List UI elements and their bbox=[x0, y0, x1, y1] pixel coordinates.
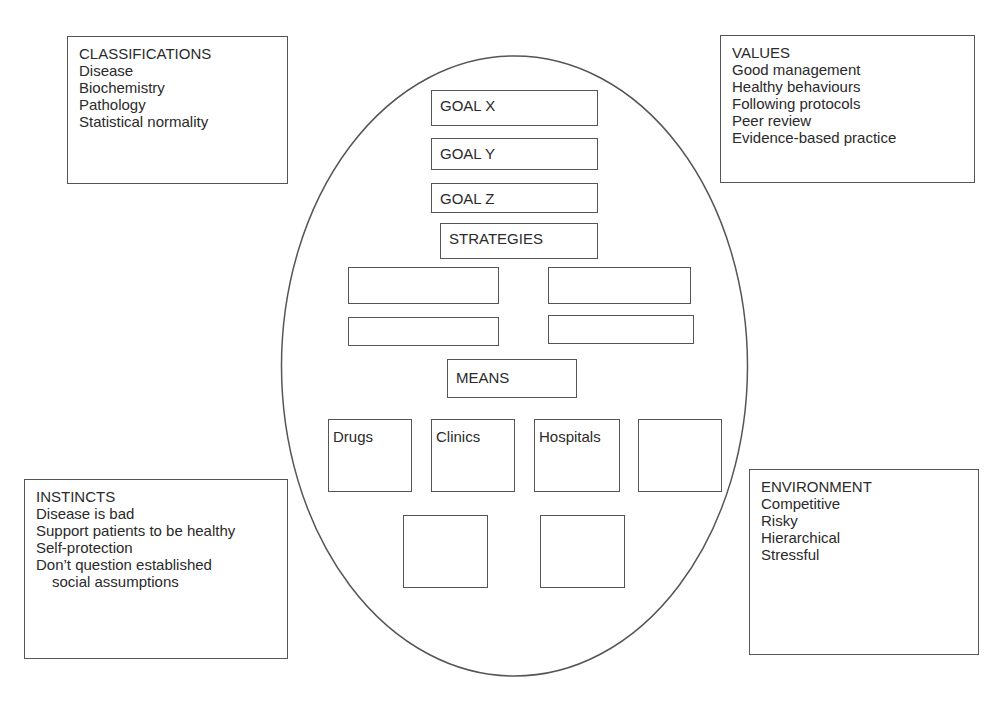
values-item: Healthy behaviours bbox=[732, 78, 974, 95]
values-item: Following protocols bbox=[732, 95, 974, 112]
means-drugs-box: Drugs bbox=[328, 419, 412, 492]
classifications-item: Pathology bbox=[79, 96, 287, 113]
means-empty-box bbox=[638, 419, 722, 492]
values-title: VALUES bbox=[732, 44, 974, 61]
instincts-item: Don’t question established bbox=[36, 556, 287, 573]
values-item: Good management bbox=[732, 61, 974, 78]
classifications-title: CLASSIFICATIONS bbox=[79, 45, 287, 62]
strategies-box: STRATEGIES bbox=[440, 223, 598, 259]
goal-x-box: GOAL X bbox=[431, 90, 598, 126]
classifications-item: Biochemistry bbox=[79, 79, 287, 96]
strategy-box bbox=[348, 267, 499, 304]
classifications-item: Disease bbox=[79, 62, 287, 79]
environment-item: Competitive bbox=[761, 495, 978, 512]
means-empty-box bbox=[403, 515, 488, 588]
instincts-item: Support patients to be healthy bbox=[36, 522, 287, 539]
environment-item: Hierarchical bbox=[761, 529, 978, 546]
goal-y-box: GOAL Y bbox=[431, 138, 598, 170]
means-clinics-box: Clinics bbox=[431, 419, 515, 492]
values-item: Evidence-based practice bbox=[732, 129, 974, 146]
instincts-item: Disease is bad bbox=[36, 505, 287, 522]
strategy-box bbox=[348, 317, 499, 346]
classifications-panel: CLASSIFICATIONS Disease Biochemistry Pat… bbox=[67, 36, 288, 184]
values-item: Peer review bbox=[732, 112, 974, 129]
environment-title: ENVIRONMENT bbox=[761, 478, 978, 495]
instincts-panel: INSTINCTS Disease is bad Support patient… bbox=[24, 479, 288, 659]
means-empty-box bbox=[540, 515, 625, 588]
environment-item: Risky bbox=[761, 512, 978, 529]
means-box: MEANS bbox=[447, 359, 577, 398]
goal-z-box: GOAL Z bbox=[431, 183, 598, 213]
environment-panel: ENVIRONMENT Competitive Risky Hierarchic… bbox=[749, 469, 979, 655]
strategy-box bbox=[548, 267, 691, 304]
strategy-box bbox=[548, 315, 694, 344]
environment-item: Stressful bbox=[761, 546, 978, 563]
values-panel: VALUES Good management Healthy behaviour… bbox=[720, 35, 975, 183]
instincts-item: Self-protection bbox=[36, 539, 287, 556]
means-hospitals-box: Hospitals bbox=[534, 419, 620, 492]
instincts-item-continuation: social assumptions bbox=[36, 573, 287, 590]
classifications-item: Statistical normality bbox=[79, 113, 287, 130]
instincts-title: INSTINCTS bbox=[36, 488, 287, 505]
